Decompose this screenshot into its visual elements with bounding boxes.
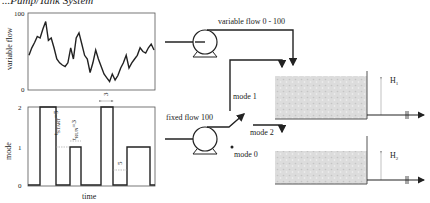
y-label-mode: mode xyxy=(4,142,13,160)
y-tick-2: 2 xyxy=(18,104,22,112)
mode2-label: mode 2 xyxy=(250,128,274,137)
top-plot: 100 0 variable flow xyxy=(5,10,155,94)
mode0-dot xyxy=(231,146,234,149)
title: ...Pump/Tank System xyxy=(2,0,93,6)
y-tick-100: 100 xyxy=(14,10,25,18)
mode0-label: mode 0 xyxy=(234,150,258,159)
y-label-variable-flow: variable flow xyxy=(5,27,14,70)
flow-series-line xyxy=(29,22,154,82)
tank-1: H1 xyxy=(275,71,424,119)
t-run-annotation: tRUN=3 xyxy=(70,120,79,140)
t-start-annotation: tSTART=5 xyxy=(52,110,61,135)
bottom-plot: 2 1 0 mode time tSTART=5 tRUN=3 3 5 xyxy=(4,92,155,201)
x-label-time: time xyxy=(82,192,97,201)
fixed-flow-label: fixed flow 100 xyxy=(166,113,213,122)
h1-label: H1 xyxy=(390,76,399,86)
y-tick-0: 0 xyxy=(21,86,25,94)
h2-label: H2 xyxy=(390,151,399,161)
mode1-pipe xyxy=(230,60,282,111)
y-tick-0: 0 xyxy=(18,182,22,190)
variable-flow-label: variable flow 0 - 100 xyxy=(218,17,285,26)
tank-2: H2 xyxy=(275,136,424,184)
pump-tank-diagram: ...Pump/Tank System 100 0 variable flow … xyxy=(0,0,430,203)
mode1-label: mode 1 xyxy=(233,92,257,101)
y-tick-1: 1 xyxy=(18,144,22,152)
mode-series-line xyxy=(28,107,155,185)
top-gap-label: 3 xyxy=(102,92,110,96)
bottom-gap-label: 5 xyxy=(116,161,124,165)
